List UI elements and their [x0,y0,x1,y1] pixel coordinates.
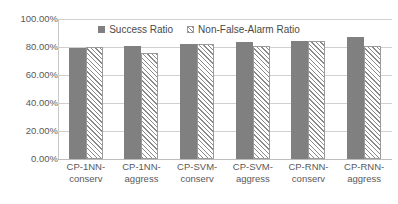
chart-legend: Success Ratio Non-False-Alarm Ratio [0,24,398,35]
x-axis-tick-label: CP-1NN-aggress [114,161,170,184]
y-axis-tick-label: 80.00% [2,42,58,52]
x-axis-tick-label-line: CP-RNN- [281,161,337,173]
bar-group [169,19,225,159]
x-axis-tick-label-line: conserv [281,173,337,185]
bar-chart: 0.00%20.00%40.00%60.00%80.00%100.00% Suc… [0,0,398,204]
x-axis-tick-label: CP-1NN-conserv [58,161,114,184]
bar [253,46,270,159]
bar [124,46,141,159]
bar-group [58,19,114,159]
bar [364,46,381,159]
x-axis-tick-label-line: CP-1NN- [58,161,114,173]
legend-item-non-false-alarm-ratio: Non-False-Alarm Ratio [187,24,300,35]
x-axis-tick-label-line: aggress [225,173,281,185]
plot-area [58,19,392,159]
bar [308,41,325,159]
legend-swatch-solid-icon [98,26,105,33]
bar-group [114,19,170,159]
bar [347,37,364,160]
x-axis-tick-label: CP-SVM-aggress [225,161,281,184]
x-axis-tick-label-line: conserv [58,173,114,185]
y-axis-tick-label: 100.00% [2,14,58,24]
x-axis-tick-label: CP-RNN-aggress [336,161,392,184]
x-axis-tick-label-line: aggress [114,173,170,185]
legend-label-non-false-alarm-ratio: Non-False-Alarm Ratio [198,24,300,35]
y-axis-tick-label: 40.00% [2,98,58,108]
bar [69,48,86,159]
y-axis-tick-label: 0.00% [2,154,58,164]
x-axis-tick-label-line: CP-RNN- [336,161,392,173]
bar-group [225,19,281,159]
x-axis-tick-label-line: CP-SVM- [225,161,281,173]
y-axis-tick-label: 60.00% [2,70,58,80]
y-axis-tick-label: 20.00% [2,126,58,136]
bar [141,53,158,159]
x-axis-tick-label-line: CP-SVM- [169,161,225,173]
x-axis-tick-label: CP-SVM-conserv [169,161,225,184]
x-axis-tick-label-line: CP-1NN- [114,161,170,173]
legend-swatch-hatch-icon [187,26,194,33]
bar [197,44,214,159]
bar-group [336,19,392,159]
gridline [58,159,392,160]
bar [86,47,103,159]
x-axis-labels: CP-1NN-conservCP-1NN-aggressCP-SVM-conse… [58,161,392,201]
bar-group [281,19,337,159]
bar [180,44,197,159]
bar [236,42,253,159]
legend-item-success-ratio: Success Ratio [98,24,173,35]
x-axis-tick-label-line: aggress [336,173,392,185]
bar [291,41,308,159]
x-axis-tick-label-line: conserv [169,173,225,185]
x-axis-tick-label: CP-RNN-conserv [281,161,337,184]
legend-label-success-ratio: Success Ratio [109,24,173,35]
y-axis: 0.00%20.00%40.00%60.00%80.00%100.00% [0,19,58,159]
